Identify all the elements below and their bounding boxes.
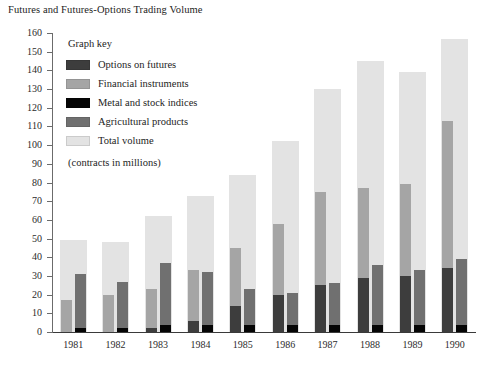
bar-group [314, 33, 341, 332]
y-axis-label: 140 [0, 65, 42, 75]
y-axis-label: 150 [0, 47, 42, 57]
legend-item: Metal and stock indices [66, 93, 276, 112]
bar-metal-and-stock-indices [244, 325, 255, 332]
bar-metal-and-stock-indices [287, 325, 298, 332]
bar-financial-instruments [103, 295, 114, 332]
y-axis-label: 100 [0, 140, 42, 150]
legend-title: Graph key [68, 38, 276, 49]
chart-root: Futures and Futures-Options Trading Volu… [0, 0, 483, 373]
x-axis-label: 1983 [137, 339, 179, 350]
y-axis-label: 120 [0, 103, 42, 113]
bar-metal-and-stock-indices [414, 325, 425, 332]
y-axis-tick [47, 332, 53, 333]
legend-swatch [66, 117, 90, 127]
bar-options-on-futures [400, 276, 411, 332]
legend-swatch [66, 98, 90, 108]
bar-group [399, 33, 426, 332]
bar-metal-and-stock-indices [160, 325, 171, 332]
legend-item: Options on futures [66, 55, 276, 74]
y-axis-label: 130 [0, 84, 42, 94]
legend-swatch [66, 79, 90, 89]
x-axis-label: 1989 [391, 339, 433, 350]
bar-metal-and-stock-indices [202, 325, 213, 332]
bar-agricultural-products [160, 263, 171, 332]
x-axis-label: 1988 [349, 339, 391, 350]
bar-options-on-futures [230, 306, 241, 332]
y-axis-label: 30 [0, 271, 42, 281]
x-axis-label: 1990 [434, 339, 476, 350]
legend-swatch [66, 136, 90, 146]
x-axis-label: 1986 [264, 339, 306, 350]
bar-options-on-futures [315, 285, 326, 332]
legend-item: Financial instruments [66, 74, 276, 93]
y-axis-label: 110 [0, 121, 42, 131]
bar-metal-and-stock-indices [117, 328, 128, 332]
y-axis-label: 70 [0, 196, 42, 206]
legend-units-note: (contracts in millions) [68, 157, 276, 168]
x-axis-label: 1987 [306, 339, 348, 350]
bar-metal-and-stock-indices [372, 325, 383, 332]
chart-title: Futures and Futures-Options Trading Volu… [8, 4, 203, 15]
bar-options-on-futures [146, 328, 157, 332]
legend-item-label: Financial instruments [98, 78, 189, 89]
y-axis-label: 40 [0, 252, 42, 262]
legend-item-label: Agricultural products [98, 116, 188, 127]
legend-item-label: Options on futures [98, 59, 176, 70]
x-axis-label: 1984 [179, 339, 221, 350]
bar-agricultural-products [372, 265, 383, 332]
y-axis-label: 50 [0, 234, 42, 244]
legend-item: Agricultural products [66, 112, 276, 131]
bar-group [441, 33, 468, 332]
legend-swatch [66, 60, 90, 70]
legend-item-label: Metal and stock indices [98, 97, 197, 108]
bar-agricultural-products [75, 274, 86, 332]
bar-options-on-futures [442, 268, 453, 332]
legend-item: Total volume [66, 131, 276, 150]
bar-options-on-futures [273, 295, 284, 332]
bar-financial-instruments [61, 300, 72, 332]
x-axis-label: 1981 [52, 339, 94, 350]
bar-metal-and-stock-indices [456, 325, 467, 332]
y-axis-label: 80 [0, 178, 42, 188]
x-axis-label: 1982 [94, 339, 136, 350]
bar-financial-instruments [146, 289, 157, 332]
bar-options-on-futures [188, 321, 199, 332]
bar-agricultural-products [117, 282, 128, 332]
bar-metal-and-stock-indices [75, 328, 86, 332]
bar-options-on-futures [358, 278, 369, 332]
chart-legend: Graph key Options on futuresFinancial in… [66, 38, 276, 168]
y-axis-label: 60 [0, 215, 42, 225]
x-axis-label: 1985 [222, 339, 264, 350]
y-axis-label: 90 [0, 159, 42, 169]
bar-metal-and-stock-indices [329, 325, 340, 332]
x-axis-line [52, 332, 476, 333]
y-axis-label: 0 [0, 327, 42, 337]
y-axis-label: 20 [0, 290, 42, 300]
bar-agricultural-products [414, 270, 425, 332]
bar-group [357, 33, 384, 332]
bar-agricultural-products [456, 259, 467, 332]
y-axis-label: 160 [0, 28, 42, 38]
y-axis-label: 10 [0, 308, 42, 318]
legend-item-label: Total volume [98, 135, 154, 146]
bar-agricultural-products [202, 272, 213, 332]
